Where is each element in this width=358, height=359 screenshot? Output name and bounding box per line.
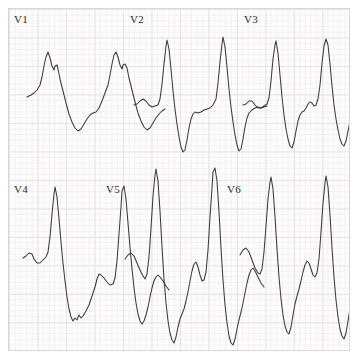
trace-group-v1 xyxy=(27,52,165,131)
lead-label-v4: V4 xyxy=(14,184,28,195)
lead-label-v2: V2 xyxy=(130,14,144,25)
lead-label-v1: V1 xyxy=(14,14,28,25)
ecg-traces-svg xyxy=(9,9,350,351)
trace-group-v6 xyxy=(240,176,350,339)
lead-label-v3: V3 xyxy=(244,14,258,25)
ecg-paper xyxy=(8,8,350,351)
ecg-trace-v4 xyxy=(23,186,169,324)
ecg-trace-v2 xyxy=(134,37,267,152)
trace-group-v4 xyxy=(23,186,169,324)
lead-label-v6: V6 xyxy=(227,184,241,195)
ecg-trace-v3 xyxy=(243,39,350,148)
trace-group-v2 xyxy=(134,37,267,152)
ecg-trace-v5 xyxy=(125,168,264,345)
ecg-traces-layer xyxy=(9,9,349,350)
ecg-trace-v6 xyxy=(240,176,350,339)
trace-group-v5 xyxy=(125,168,264,345)
lead-label-v5: V5 xyxy=(106,184,120,195)
trace-group-v3 xyxy=(243,39,350,148)
ecg-trace-v1 xyxy=(27,52,165,131)
ecg-strip: V1 V2 V3 V4 V5 V6 xyxy=(0,0,358,359)
